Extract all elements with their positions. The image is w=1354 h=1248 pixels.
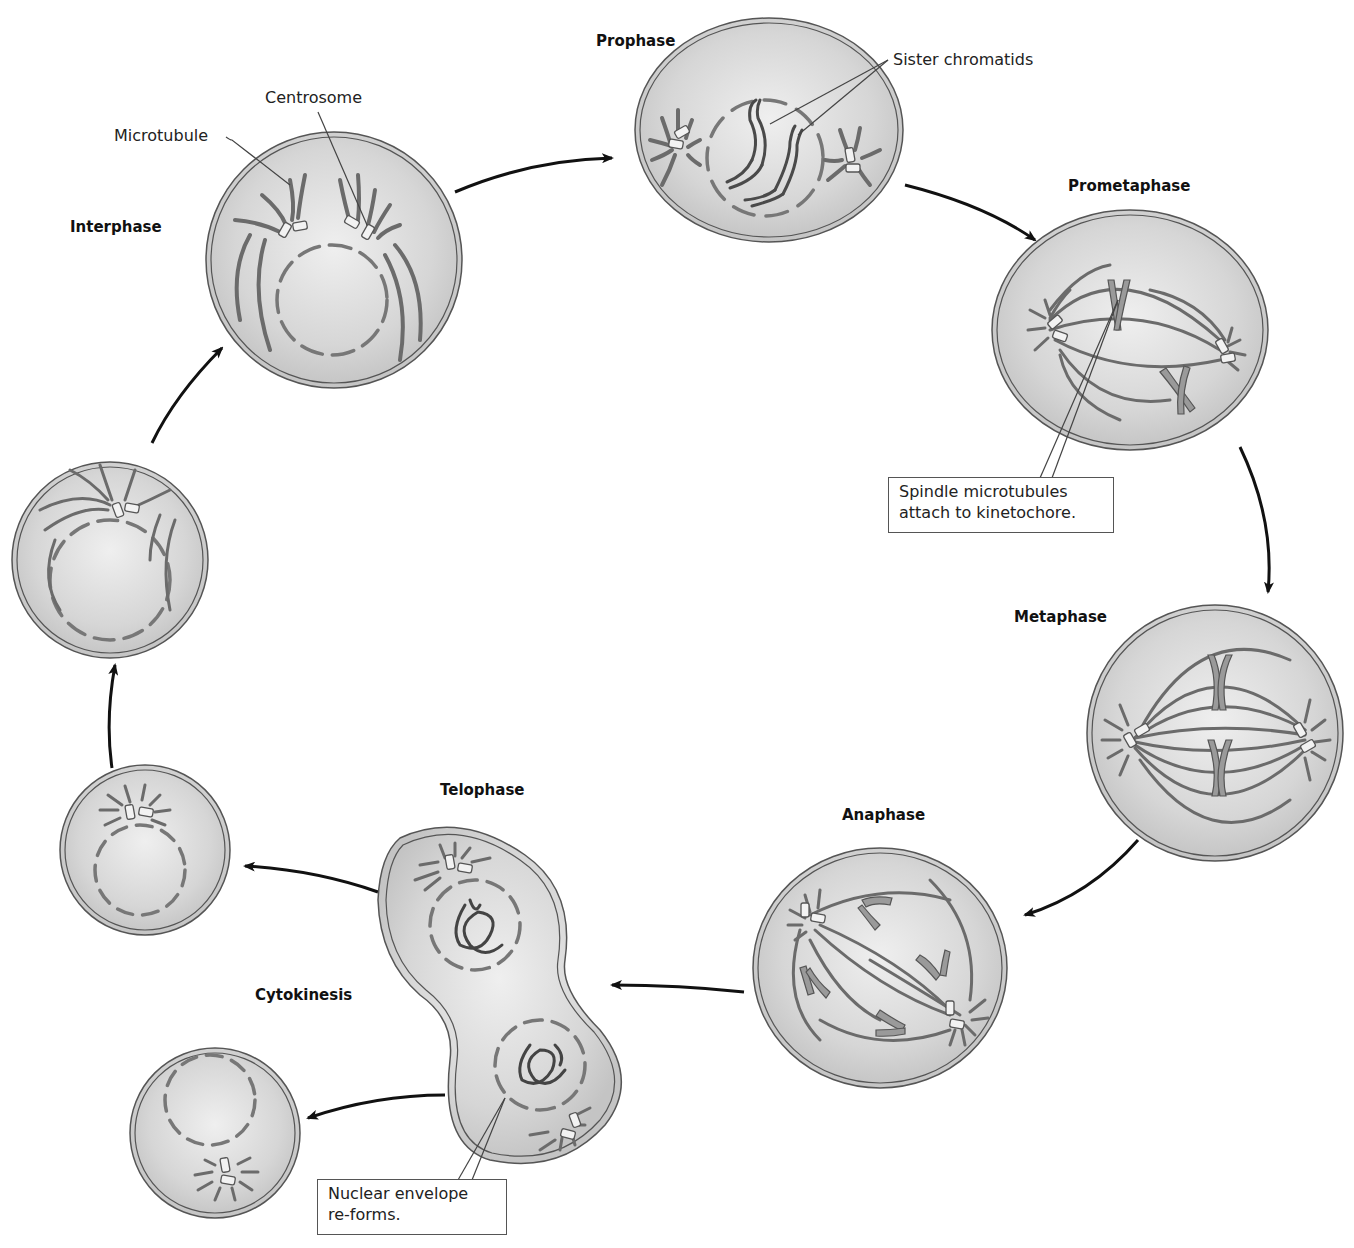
label-prophase: Prophase (596, 32, 675, 50)
telophase-cell (378, 827, 621, 1180)
label-prometaphase: Prometaphase (1068, 177, 1190, 195)
label-telophase: Telophase (440, 781, 525, 799)
callout-kinetochore-line2: attach to kinetochore. (899, 502, 1103, 523)
metaphase-cell (1087, 605, 1343, 861)
callout-kinetochore-line1: Spindle microtubules (899, 481, 1103, 502)
callout-kinetochore-box: Spindle microtubules attach to kinetocho… (888, 477, 1114, 533)
label-cytokinesis: Cytokinesis (255, 986, 352, 1004)
callout-envelope-line2: re-forms. (328, 1204, 496, 1225)
prometaphase-cell (992, 210, 1268, 478)
arrow-interphase-to-prophase (455, 158, 612, 192)
label-metaphase: Metaphase (1014, 608, 1107, 626)
arrow-telophase-to-small-cell (245, 866, 378, 892)
arrow-prophase-to-prometaphase (905, 185, 1035, 240)
callout-sister-chromatids: Sister chromatids (893, 50, 1033, 69)
anaphase-cell (753, 848, 1007, 1088)
arrow-metaphase-to-anaphase (1025, 840, 1138, 915)
interphase-cell (206, 132, 462, 388)
cytokinesis-cell (130, 1048, 300, 1218)
prophase-cell (635, 18, 903, 242)
callout-envelope-box: Nuclear envelope re-forms. (317, 1179, 507, 1235)
label-anaphase: Anaphase (842, 806, 925, 824)
callout-centrosome: Centrosome (265, 88, 362, 107)
callout-microtubule: Microtubule (114, 126, 208, 145)
daughter-cell-left (60, 765, 230, 935)
callout-envelope-line1: Nuclear envelope (328, 1183, 496, 1204)
daughter-cell-g1 (12, 462, 208, 658)
arrow-anaphase-to-telophase (612, 985, 744, 992)
label-interphase: Interphase (70, 218, 162, 236)
arrow-small-cell-to-g1 (109, 665, 115, 768)
arrow-prometaphase-to-metaphase (1240, 447, 1269, 592)
arrow-g1-to-interphase (152, 348, 222, 443)
arrow-telophase-to-cytokinesis (308, 1095, 445, 1118)
